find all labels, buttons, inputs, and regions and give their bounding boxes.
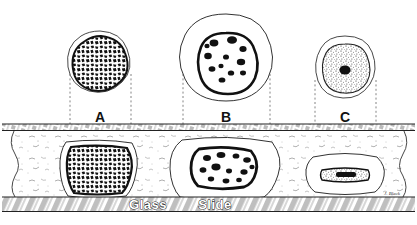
cell-a-nucleus	[73, 36, 128, 91]
squashed-cell-a	[60, 140, 137, 198]
cell-b-nucleus	[198, 33, 258, 94]
cell-flattening-diagram: A B C	[0, 0, 417, 225]
figure-canvas: A B C	[0, 0, 417, 225]
artist-signature: J. Black	[384, 191, 401, 196]
squashed-c-nucleolus	[336, 172, 356, 177]
squashed-cell-b	[170, 137, 280, 200]
glass-slide-label-slide: Slide	[198, 197, 232, 212]
free-cell-a	[68, 31, 131, 92]
glass-slide-label-glass: Glass	[129, 197, 167, 212]
cell-c-nucleolus	[339, 65, 350, 74]
cell-label-c: C	[340, 109, 350, 125]
squashed-a-nucleus	[67, 146, 132, 195]
cell-label-a: A	[95, 109, 105, 125]
cell-label-b: B	[221, 109, 231, 125]
free-cell-c	[316, 36, 375, 98]
squashed-cell-c	[306, 154, 384, 195]
coverslip	[2, 124, 415, 131]
free-cell-b	[180, 14, 273, 101]
